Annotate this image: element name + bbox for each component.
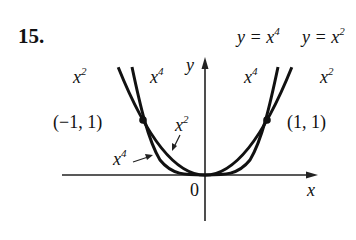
label-top-right-x4: x4 [244, 68, 258, 86]
label-base: x [244, 67, 252, 87]
label-exp: 4 [121, 147, 127, 159]
label-top-left-x4: x4 [150, 68, 164, 86]
legend-y-x4-base: y = x [237, 27, 274, 47]
label-top-left-x2: x2 [73, 68, 87, 86]
label-exp: 2 [183, 113, 189, 125]
y-axis-label: y [186, 56, 194, 74]
x-axis-arrow-icon [306, 172, 318, 179]
label-inner-x4: x4 [113, 150, 127, 168]
y-axis-arrow-icon [202, 57, 209, 69]
legend-y-x2-base: y = x [302, 27, 339, 47]
label-base: x [175, 115, 183, 135]
point-label-right: (1, 1) [287, 113, 326, 131]
origin-label: 0 [190, 181, 199, 199]
label-base: x [150, 67, 158, 87]
label-exp: 4 [252, 65, 258, 77]
legend-y-x4: y = x4 [237, 28, 280, 46]
pointer-x4-arrowhead-icon [145, 154, 153, 160]
legend-y-x2: y = x2 [302, 28, 345, 46]
x-axis-label: x [307, 181, 315, 199]
problem-number: 15. [18, 26, 44, 47]
point-label-left: (−1, 1) [53, 113, 102, 131]
label-exp: 2 [81, 65, 87, 77]
label-inner-x2: x2 [175, 116, 189, 134]
label-top-right-x2: x2 [320, 68, 334, 86]
intersection-point-left [139, 116, 147, 124]
intersection-point-right [263, 116, 271, 124]
label-base: x [113, 149, 121, 169]
legend-y-x2-exp: 2 [339, 25, 345, 37]
label-base: x [73, 67, 81, 87]
legend-y-x4-exp: 4 [274, 25, 280, 37]
pointer-x4-arrow [133, 157, 148, 162]
label-base: x [320, 67, 328, 87]
label-exp: 2 [328, 65, 334, 77]
label-exp: 4 [158, 65, 164, 77]
pointer-x2-arrowhead-icon [172, 143, 177, 151]
